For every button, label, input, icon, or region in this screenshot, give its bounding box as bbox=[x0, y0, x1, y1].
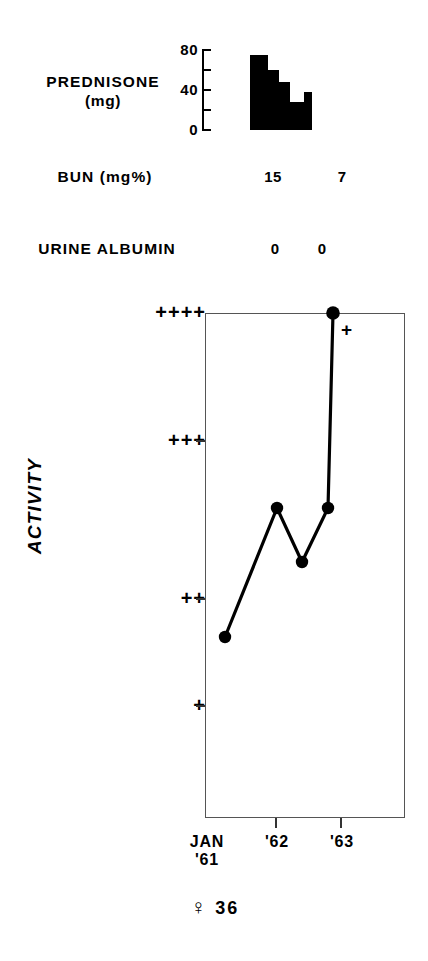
prednisone-bar-5 bbox=[304, 92, 312, 130]
prednisone-bar-chart bbox=[250, 50, 320, 130]
prednisone-label-text: PREDNISONE bbox=[46, 73, 160, 90]
activity-point-1 bbox=[219, 631, 231, 643]
prednisone-tick-label-80: 80 bbox=[168, 42, 198, 57]
bun-value-2: 7 bbox=[322, 168, 362, 185]
activity-data-plot bbox=[0, 290, 428, 850]
urine-albumin-value-2: 0 bbox=[302, 240, 342, 257]
urine-albumin-row-label: URINE ALBUMIN bbox=[12, 240, 202, 258]
prednisone-bar-1 bbox=[250, 55, 268, 130]
activity-point-3 bbox=[296, 556, 308, 568]
prednisone-tick-label-0: 0 bbox=[168, 122, 198, 137]
activity-xtick-mark-62 bbox=[275, 818, 277, 828]
female-sex-icon: ♀ bbox=[191, 895, 209, 918]
prednisone-axis-tick-0 bbox=[202, 129, 211, 131]
prednisone-axis-tick-40 bbox=[202, 89, 211, 91]
prednisone-row-label: PREDNISONE (mg) bbox=[28, 72, 178, 110]
activity-xtick-mark-63 bbox=[340, 818, 342, 828]
prednisone-unit-text: (mg) bbox=[28, 91, 178, 110]
bun-row-label: BUN (mg%) bbox=[30, 168, 180, 186]
patient-age: 36 bbox=[215, 898, 239, 918]
activity-point-5 bbox=[326, 306, 340, 320]
activity-line bbox=[225, 313, 333, 637]
activity-xtick-label-63: '63 bbox=[307, 833, 377, 851]
urine-albumin-value-1: 0 bbox=[255, 240, 295, 257]
prednisone-bar-2 bbox=[268, 70, 279, 130]
activity-xtick-label-jan61-line2: '61 bbox=[195, 851, 219, 868]
activity-plus-annotation: + bbox=[341, 320, 352, 339]
prednisone-tick-label-40: 40 bbox=[168, 82, 198, 97]
prednisone-axis-tick-60 bbox=[202, 69, 211, 71]
prednisone-axis-tick-80 bbox=[202, 49, 211, 51]
clinical-course-figure: PREDNISONE (mg) 80 40 0 BUN (mg%) 15 7 U… bbox=[0, 0, 428, 961]
activity-point-2 bbox=[271, 502, 283, 514]
prednisone-bar-4 bbox=[290, 102, 304, 130]
prednisone-axis-tick-20 bbox=[202, 109, 211, 111]
activity-xtick-label-jan61: JAN '61 bbox=[172, 833, 242, 869]
activity-chart: ACTIVITY ++++ +++ ++ + + JAN '61 '6 bbox=[0, 290, 428, 850]
prednisone-bar-3 bbox=[279, 82, 290, 130]
bun-value-1: 15 bbox=[253, 168, 293, 185]
activity-xtick-label-jan61-line1: JAN bbox=[190, 833, 224, 850]
activity-point-4 bbox=[322, 502, 334, 514]
activity-xtick-label-62: '62 bbox=[242, 833, 312, 851]
patient-identifier: ♀ 36 bbox=[140, 895, 290, 919]
prednisone-y-axis: 80 40 0 bbox=[168, 42, 228, 142]
